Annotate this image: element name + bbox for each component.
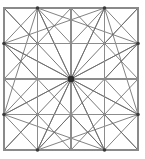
vertex-dot <box>2 113 6 117</box>
vertex-dot <box>2 42 6 46</box>
vertex-dot <box>136 113 140 117</box>
vertex-dot <box>103 6 107 10</box>
vertex-dot <box>103 148 107 152</box>
center-hub <box>68 76 74 82</box>
vertex-dot <box>36 148 40 152</box>
vertex-dot <box>36 6 40 10</box>
center-hub-dot <box>68 76 74 82</box>
figure-canvas: Symmetric star polygon grid <box>0 0 145 159</box>
geometric-figure-svg <box>0 0 145 159</box>
vertex-dot <box>136 42 140 46</box>
